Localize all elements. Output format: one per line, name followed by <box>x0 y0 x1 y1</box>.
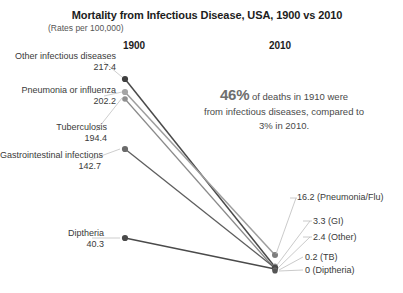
leader-line-diptheria-right <box>279 270 303 271</box>
annotation-line-2: from infectious diseases, compared to <box>204 106 364 117</box>
data-point-diptheria-2010 <box>272 268 277 273</box>
left-label-tuberculosis: Tuberculosis 194.4 <box>0 122 107 143</box>
annotation-line-3: 3% in 2010. <box>259 120 309 131</box>
left-label-value: 40.3 <box>0 239 104 250</box>
left-label-value: 202.2 <box>0 96 116 107</box>
data-point-pneumonia-1900 <box>122 89 128 95</box>
data-point-diptheria-1900 <box>122 235 128 241</box>
annotation-line-1: of deaths in 1910 were <box>249 91 348 102</box>
left-label-other-infectious-diseases: Other infectious diseases 217.4 <box>0 51 116 72</box>
left-label-name: Tuberculosis <box>0 122 107 133</box>
right-label-tb: 0.2 (TB) <box>305 252 338 262</box>
right-label-gi: 3.3 (GI) <box>313 216 344 226</box>
data-point-tuberculosis-1900 <box>122 96 128 102</box>
left-label-value: 194.4 <box>0 133 107 144</box>
left-label-name: Pneumonia or influenza <box>0 85 116 96</box>
data-point-pneumonia-2010 <box>272 252 278 258</box>
left-label-value: 142.7 <box>0 161 101 172</box>
data-point-other-1900 <box>122 76 128 82</box>
left-label-name: Diptheria <box>0 228 104 239</box>
left-label-diptheria: Diptheria 40.3 <box>0 228 104 249</box>
data-point-gastrointestinal-1900 <box>122 146 128 152</box>
right-label-diptheria: 0 (Diptheria) <box>305 265 355 275</box>
left-label-gastrointestinal-infections: Gastrointestinal infections 142.7 <box>0 150 101 171</box>
leader-line-pneumonia-right <box>276 198 296 254</box>
left-label-name: Gastrointestinal infections <box>0 150 101 161</box>
right-label-other: 2.4 (Other) <box>313 232 357 242</box>
annotation-highlight: 46% <box>220 86 249 103</box>
slope-chart: Mortality from Infectious Disease, USA, … <box>0 0 403 293</box>
left-label-pneumonia-or-influenza: Pneumonia or influenza 202.2 <box>0 85 116 106</box>
annotation-callout: 46% of deaths in 1910 were from infectio… <box>170 84 398 132</box>
left-label-name: Other infectious diseases <box>0 51 116 62</box>
slope-line-gastrointestinal <box>125 149 275 268</box>
left-label-value: 217.4 <box>0 62 116 73</box>
right-label-pneumonia-flu: 16.2 (Pneumonia/Flu) <box>297 192 384 202</box>
